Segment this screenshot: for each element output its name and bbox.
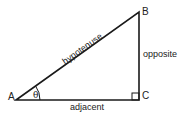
vertex-label-c: C <box>142 91 149 101</box>
right-angle-marker <box>132 93 139 100</box>
adjacent-label: adjacent <box>70 103 104 112</box>
opposite-label: opposite <box>143 50 177 59</box>
vertex-label-b: B <box>142 7 149 17</box>
vertex-label-a: A <box>8 92 15 102</box>
right-triangle-diagram: A B C θ hypotenuse opposite adjacent <box>0 0 181 120</box>
angle-theta-label: θ <box>33 91 38 100</box>
